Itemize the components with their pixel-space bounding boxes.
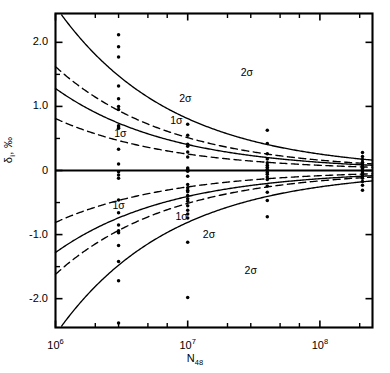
series-group-1e7 bbox=[186, 123, 190, 300]
data-point bbox=[186, 194, 190, 198]
x-tick-exponent: 6 bbox=[60, 337, 64, 346]
x-tick-mantissa: 10 bbox=[47, 338, 59, 350]
y-axis-label: δi, ‰ bbox=[2, 137, 17, 163]
y-axis-label-symbol: δ bbox=[2, 157, 14, 163]
data-point bbox=[117, 170, 121, 174]
series-group-4e7 bbox=[266, 128, 270, 218]
curve-label-+1sigma-solid: 1σ bbox=[170, 114, 183, 126]
data-point bbox=[186, 241, 190, 245]
data-point bbox=[117, 105, 121, 109]
x-tick-exponent: 8 bbox=[324, 337, 328, 346]
sigma-curve--1sigma-solid bbox=[56, 176, 373, 253]
y-tick-label: 1.0 bbox=[6, 99, 48, 111]
data-point bbox=[186, 150, 190, 154]
data-point bbox=[361, 189, 365, 193]
data-point bbox=[186, 200, 190, 204]
data-point bbox=[117, 321, 121, 325]
sigma-curve-+1sigma-solid bbox=[56, 88, 373, 165]
y-tick-label: 2.0 bbox=[6, 35, 48, 47]
data-point bbox=[266, 157, 270, 161]
y-tick-label: -1.0 bbox=[6, 228, 48, 240]
series-group-2e8 bbox=[361, 151, 365, 192]
data-point bbox=[361, 180, 365, 184]
data-point bbox=[266, 184, 270, 188]
sigma-curve--2sigma-solid bbox=[62, 181, 373, 326]
curve-label-+2sigma-dashed: 2σ bbox=[179, 92, 192, 104]
data-point bbox=[186, 169, 190, 173]
data-point bbox=[186, 123, 190, 127]
x-tick-label: 108 bbox=[300, 337, 340, 351]
y-tick-label: -2.0 bbox=[6, 292, 48, 304]
data-point bbox=[186, 144, 190, 148]
data-point bbox=[266, 178, 270, 182]
x-axis-label-symbol: N bbox=[187, 352, 195, 364]
data-point bbox=[186, 183, 190, 187]
y-axis-label-unit: , ‰ bbox=[2, 137, 14, 155]
data-point bbox=[186, 296, 190, 300]
x-tick-exponent: 7 bbox=[192, 337, 196, 346]
curve-label--1sigma-solid: 1σ bbox=[175, 210, 188, 222]
data-point bbox=[117, 162, 121, 166]
x-tick-label: 107 bbox=[168, 337, 208, 351]
x-tick-mantissa: 10 bbox=[179, 338, 191, 350]
data-point bbox=[186, 190, 190, 194]
data-point bbox=[117, 84, 121, 88]
y-tick-label: 0 bbox=[6, 164, 48, 176]
x-axis-label-subscript: 48 bbox=[195, 358, 203, 367]
data-point bbox=[117, 148, 121, 152]
data-point bbox=[117, 173, 121, 177]
curve-label-+2sigma-solid: 2σ bbox=[241, 66, 254, 78]
data-point bbox=[361, 183, 365, 187]
sigma-curve-+2sigma-solid bbox=[62, 15, 373, 160]
data-point bbox=[117, 223, 121, 227]
data-point bbox=[117, 231, 121, 235]
data-point bbox=[266, 215, 270, 219]
data-point bbox=[117, 45, 121, 49]
data-point bbox=[186, 204, 190, 208]
data-point bbox=[186, 134, 190, 138]
data-point bbox=[117, 198, 121, 202]
data-point bbox=[186, 212, 190, 216]
data-point bbox=[186, 216, 190, 220]
data-point bbox=[186, 155, 190, 159]
data-point bbox=[117, 33, 121, 37]
figure-container: 2σ2σ1σ1σ1σ1σ2σ2σ δi, ‰ N48 2.01.00-1.0-2… bbox=[0, 0, 390, 373]
data-point bbox=[117, 260, 121, 264]
chart-canvas: 2σ2σ1σ1σ1σ1σ2σ2σ bbox=[0, 0, 390, 373]
data-point bbox=[361, 151, 365, 155]
data-point bbox=[266, 191, 270, 195]
data-point bbox=[117, 55, 121, 59]
data-point bbox=[186, 175, 190, 179]
data-point bbox=[266, 128, 270, 132]
data-point bbox=[117, 211, 121, 215]
data-point bbox=[361, 176, 365, 180]
data-point bbox=[186, 208, 190, 212]
x-tick-mantissa: 10 bbox=[312, 338, 324, 350]
data-point bbox=[361, 155, 365, 159]
data-point bbox=[117, 279, 121, 283]
data-point bbox=[117, 126, 121, 130]
data-point bbox=[117, 108, 121, 112]
curve-label-+1sigma-dashed: 1σ bbox=[114, 127, 127, 139]
x-tick-label: 106 bbox=[36, 337, 76, 351]
data-point bbox=[117, 176, 121, 180]
data-point bbox=[266, 199, 270, 203]
data-point bbox=[266, 142, 270, 146]
data-point bbox=[117, 244, 121, 248]
curve-label--2sigma-dashed: 2σ bbox=[203, 228, 216, 240]
data-point bbox=[117, 97, 121, 101]
x-axis-label: N48 bbox=[0, 352, 390, 367]
curve-label--2sigma-solid: 2σ bbox=[245, 264, 258, 276]
data-point bbox=[266, 152, 270, 156]
